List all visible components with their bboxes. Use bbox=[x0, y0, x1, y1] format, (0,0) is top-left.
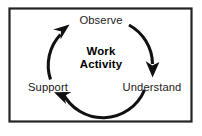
node-label-support: Support bbox=[28, 81, 69, 93]
node-label-observe: Observe bbox=[80, 14, 123, 26]
cycle-diagram-canvas: Observe Understand Support Work Activity bbox=[0, 0, 202, 136]
center-label-line1: Work bbox=[87, 45, 116, 57]
node-label-understand: Understand bbox=[123, 81, 182, 93]
work-activity-figure: Observe Understand Support Work Activity bbox=[0, 0, 202, 136]
center-label-line2: Activity bbox=[80, 58, 123, 70]
